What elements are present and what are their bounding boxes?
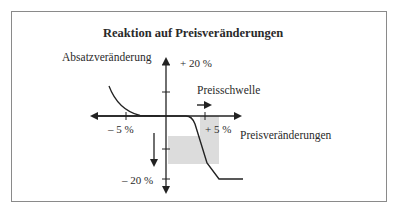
- x-axis-label: Preisveränderungen: [240, 129, 332, 142]
- highlight-sales-drop-zone: [168, 136, 219, 164]
- y-tick-label-top: + 20 %: [180, 57, 212, 69]
- y-axis-label: Absatzveränderung: [62, 51, 152, 64]
- diagram-frame: [12, 12, 387, 202]
- diagram-title: Reaktion auf Preisveränderungen: [103, 26, 283, 40]
- price-reaction-diagram: Reaktion auf Preisveränderungen Absatzve…: [0, 0, 397, 212]
- y-tick-label-bottom: – 20 %: [121, 174, 153, 186]
- x-tick-label-left: – 5 %: [107, 123, 134, 135]
- x-tick-label-right: + 5 %: [205, 123, 231, 135]
- threshold-label: Preisschwelle: [197, 84, 260, 96]
